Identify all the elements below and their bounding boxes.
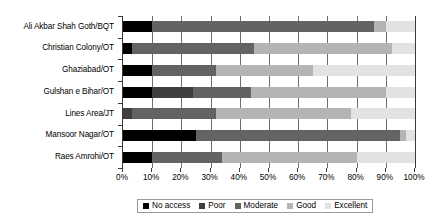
plot-area [122, 16, 416, 168]
bar-segment-moderate[interactable] [152, 21, 374, 32]
x-axis-tick-label: 30% [201, 172, 217, 183]
bar-row[interactable] [123, 125, 415, 147]
legend-label: Excellent [334, 202, 367, 210]
stacked-bar[interactable] [123, 152, 415, 163]
bar-segment-poor[interactable] [123, 108, 132, 119]
legend-item[interactable]: Good [287, 202, 316, 210]
category-label: Ali Akbar Shah Goth/BQT [0, 16, 118, 38]
category-label: Gulshan e Bihar/OT [0, 81, 118, 103]
legend-item[interactable]: Excellent [325, 202, 367, 210]
category-axis: Ali Akbar Shah Goth/BQTChristian Colony/… [0, 16, 118, 168]
legend-swatch-icon [235, 203, 241, 209]
bar-segment-good[interactable] [254, 43, 391, 54]
bar-row[interactable] [123, 38, 415, 60]
bar-segment-excellent[interactable] [386, 21, 415, 32]
x-axis-tick-label: 40% [231, 172, 247, 183]
chart-legend: No accessPoorModerateGoodExcellent [137, 199, 373, 213]
bar-row[interactable] [123, 81, 415, 103]
bar-segment-excellent[interactable] [406, 130, 415, 141]
x-axis-tick-label: 80% [347, 172, 363, 183]
bar-segment-no-access[interactable] [123, 87, 152, 98]
stacked-bar[interactable] [123, 43, 415, 54]
bar-segment-moderate[interactable] [152, 152, 222, 163]
bar-segment-moderate[interactable] [152, 65, 216, 76]
legend-item[interactable]: No access [143, 202, 190, 210]
category-label: Christian Colony/OT [0, 38, 118, 60]
category-label: Mansoor Nagar/OT [0, 125, 118, 147]
x-axis-tick-label: 70% [318, 172, 334, 183]
bar-segment-good[interactable] [374, 21, 386, 32]
x-axis-tick-label: 90% [377, 172, 393, 183]
bar-segment-excellent[interactable] [386, 87, 415, 98]
bar-segment-excellent[interactable] [351, 108, 415, 119]
legend-swatch-icon [287, 203, 293, 209]
stacked-bar[interactable] [123, 21, 415, 32]
legend-item[interactable]: Moderate [235, 202, 279, 210]
bar-row[interactable] [123, 146, 415, 168]
x-axis-tick-label: 100% [404, 172, 425, 183]
bar-segment-moderate[interactable] [193, 87, 251, 98]
category-label: Lines Area/JT [0, 103, 118, 125]
bar-segment-good[interactable] [222, 152, 356, 163]
x-axis-tick-label: 20% [172, 172, 188, 183]
legend-label: Good [296, 202, 316, 210]
bar-segment-no-access[interactable] [123, 152, 152, 163]
bar-series-container [123, 16, 415, 168]
legend-label: Poor [208, 202, 225, 210]
bar-segment-excellent[interactable] [313, 65, 415, 76]
x-axis-tick-labels: 0%10%20%30%40%50%60%70%80%90%100% [0, 172, 439, 184]
bar-segment-excellent[interactable] [357, 152, 415, 163]
stacked-bar[interactable] [123, 87, 415, 98]
legend-swatch-icon [325, 203, 331, 209]
bar-segment-no-access[interactable] [123, 43, 132, 54]
bar-segment-no-access[interactable] [123, 65, 152, 76]
legend-swatch-icon [143, 203, 149, 209]
bar-segment-excellent[interactable] [392, 43, 415, 54]
bar-segment-moderate[interactable] [132, 43, 255, 54]
legend-label: Moderate [244, 202, 279, 210]
bar-segment-poor[interactable] [152, 87, 193, 98]
legend-label: No access [152, 202, 190, 210]
bar-segment-good[interactable] [251, 87, 385, 98]
bar-segment-moderate[interactable] [196, 130, 400, 141]
x-axis-tick-label: 10% [143, 172, 159, 183]
bar-row[interactable] [123, 16, 415, 38]
legend-item[interactable]: Poor [199, 202, 225, 210]
stacked-bar[interactable] [123, 108, 415, 119]
bar-segment-good[interactable] [216, 108, 350, 119]
category-label: Ghaziabad/OT [0, 59, 118, 81]
legend-swatch-icon [199, 203, 205, 209]
bar-row[interactable] [123, 103, 415, 125]
bar-row[interactable] [123, 59, 415, 81]
stacked-bar-chart: Ali Akbar Shah Goth/BQTChristian Colony/… [0, 0, 439, 224]
stacked-bar[interactable] [123, 130, 415, 141]
category-label: Raes Amrohi/OT [0, 146, 118, 168]
x-axis-tick-label: 60% [289, 172, 305, 183]
bar-segment-no-access[interactable] [123, 21, 152, 32]
x-axis-tick-label: 50% [260, 172, 276, 183]
stacked-bar[interactable] [123, 65, 415, 76]
bar-segment-no-access[interactable] [123, 130, 196, 141]
bar-segment-moderate[interactable] [132, 108, 217, 119]
bar-segment-good[interactable] [216, 65, 312, 76]
x-axis-tick-label: 0% [116, 172, 128, 183]
